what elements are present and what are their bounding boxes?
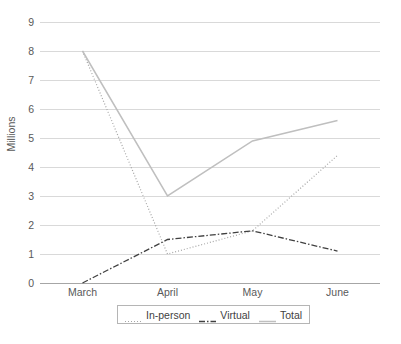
y-tick-label: 3 — [6, 191, 34, 201]
y-tick-label: 0 — [6, 278, 34, 288]
series-line-total — [83, 51, 338, 196]
x-axis-line — [40, 283, 380, 284]
x-tick-label: March — [68, 286, 97, 299]
x-tick-label: May — [243, 286, 263, 299]
legend-swatch-icon — [125, 311, 142, 318]
y-tick-label: 5 — [6, 133, 34, 143]
series-lines — [40, 22, 380, 283]
y-tick-label: 4 — [6, 162, 34, 172]
legend-item-virtual[interactable]: Virtual — [199, 309, 250, 321]
y-tick-label: 7 — [6, 75, 34, 85]
legend-label: Total — [280, 309, 302, 321]
legend-item-in-person[interactable]: In-person — [125, 309, 190, 321]
x-tick-label: June — [326, 286, 349, 299]
line-chart-figure: Millions 0123456789 MarchAprilMayJune In… — [0, 0, 401, 344]
series-line-in-person — [83, 51, 338, 254]
y-tick-label: 6 — [6, 104, 34, 114]
y-tick-label: 8 — [6, 46, 34, 56]
y-tick-label: 1 — [6, 249, 34, 259]
legend-swatch-icon — [259, 311, 276, 318]
series-line-virtual — [83, 231, 338, 283]
chart-legend[interactable]: In-personVirtualTotal — [117, 305, 310, 324]
y-tick-label: 9 — [6, 17, 34, 27]
legend-item-total[interactable]: Total — [259, 309, 302, 321]
y-tick-label: 2 — [6, 220, 34, 230]
y-axis-tick-labels: 0123456789 — [0, 22, 34, 283]
legend-label: Virtual — [220, 309, 250, 321]
x-tick-label: April — [157, 286, 178, 299]
x-axis-tick-labels: MarchAprilMayJune — [40, 286, 380, 302]
legend-label: In-person — [146, 309, 190, 321]
legend-swatch-icon — [199, 311, 216, 318]
plot-area — [40, 22, 380, 283]
